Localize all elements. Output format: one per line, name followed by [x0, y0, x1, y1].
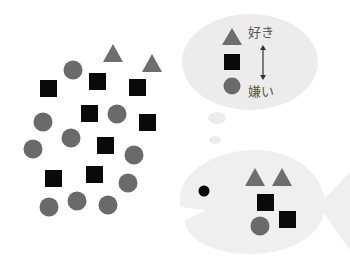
square-shape — [257, 194, 274, 211]
bubble-small — [208, 112, 226, 124]
square-shape — [139, 114, 156, 131]
diagram-canvas — [0, 0, 350, 268]
triangle-shape — [142, 54, 162, 72]
square-shape — [129, 79, 146, 96]
circle-icon — [224, 78, 241, 95]
scattered-shapes — [24, 44, 163, 217]
circle-shape — [119, 174, 138, 193]
fish-eye — [199, 186, 210, 197]
circle-shape — [99, 196, 118, 215]
circle-shape — [64, 61, 83, 80]
square-icon — [224, 54, 240, 70]
fish — [180, 150, 350, 254]
fish-body — [180, 150, 325, 254]
circle-shape — [68, 192, 87, 211]
circle-shape — [62, 129, 81, 148]
triangle-shape — [103, 44, 123, 62]
bubble-tiny — [209, 136, 221, 144]
like-label: 好き — [248, 26, 274, 39]
square-shape — [86, 166, 103, 183]
square-shape — [279, 211, 296, 228]
circle-shape — [108, 105, 127, 124]
circle-shape — [24, 140, 43, 159]
circle-shape — [251, 217, 270, 236]
square-shape — [89, 73, 106, 90]
dislike-label: 嫌い — [248, 85, 274, 98]
square-shape — [40, 80, 57, 97]
square-shape — [45, 170, 62, 187]
circle-shape — [125, 146, 144, 165]
circle-shape — [34, 113, 53, 132]
square-shape — [97, 137, 114, 154]
square-shape — [81, 105, 98, 122]
circle-shape — [40, 198, 59, 217]
